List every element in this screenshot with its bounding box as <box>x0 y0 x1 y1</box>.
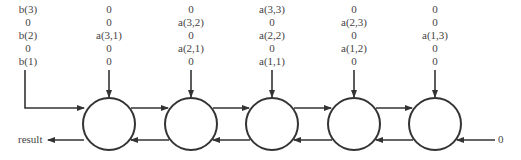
value: a(2,3) <box>324 16 384 29</box>
value: 0 <box>324 29 384 42</box>
value: b(1) <box>0 55 58 68</box>
processing-cell-1 <box>83 98 135 150</box>
value: 0 <box>324 3 384 16</box>
b-input-arrow <box>25 70 84 108</box>
value: 0 <box>161 29 221 42</box>
value: 0 <box>0 42 58 55</box>
value: b(2) <box>0 29 58 42</box>
value: 0 <box>405 42 465 55</box>
value: a(3,3) <box>242 3 302 16</box>
input-column-b: b(3) 0 b(2) 0 b(1) <box>0 3 58 68</box>
result-label: result <box>18 133 42 145</box>
value: a(2,2) <box>242 29 302 42</box>
value: a(1,1) <box>242 55 302 68</box>
processing-cell-5 <box>409 98 461 150</box>
input-column-4: 0 a(2,3) 0 a(1,2) 0 <box>324 3 384 68</box>
value: 0 <box>405 55 465 68</box>
processing-cell-2 <box>165 98 217 150</box>
value: 0 <box>161 3 221 16</box>
value: a(1,3) <box>405 29 465 42</box>
value: 0 <box>0 16 58 29</box>
input-column-1: 0 0 a(3,1) 0 0 <box>79 3 139 68</box>
value: a(1,2) <box>324 42 384 55</box>
right-input-label: 0 <box>498 133 504 145</box>
value: 0 <box>405 16 465 29</box>
input-column-2: 0 a(3,2) 0 a(2,1) 0 <box>161 3 221 68</box>
value: 0 <box>79 42 139 55</box>
value: 0 <box>79 3 139 16</box>
value: a(3,1) <box>79 29 139 42</box>
value: a(2,1) <box>161 42 221 55</box>
value: 0 <box>79 55 139 68</box>
input-column-3: a(3,3) 0 a(2,2) 0 a(1,1) <box>242 3 302 68</box>
value: 0 <box>405 3 465 16</box>
value: 0 <box>161 55 221 68</box>
value: 0 <box>242 42 302 55</box>
value: 0 <box>79 16 139 29</box>
value: 0 <box>242 16 302 29</box>
value: a(3,2) <box>161 16 221 29</box>
value: 0 <box>324 55 384 68</box>
processing-cell-4 <box>328 98 380 150</box>
input-column-5: 0 0 a(1,3) 0 0 <box>405 3 465 68</box>
processing-cell-3 <box>246 98 298 150</box>
value: b(3) <box>0 3 58 16</box>
